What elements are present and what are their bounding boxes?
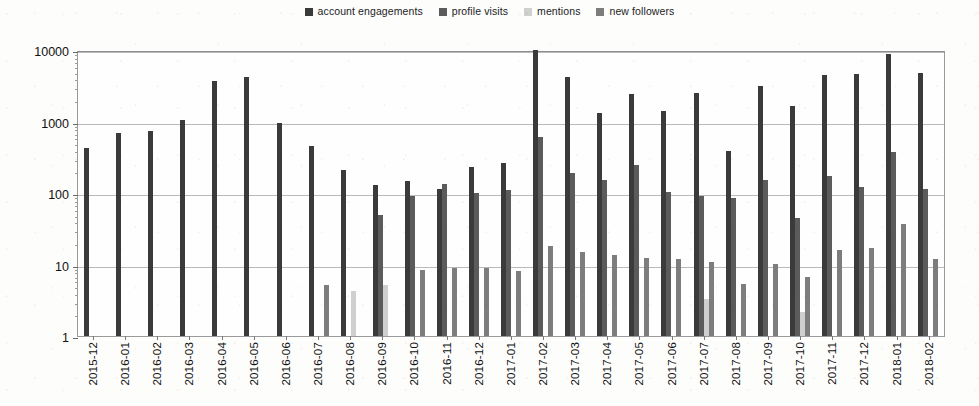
bar [869,248,874,336]
bar [116,133,121,336]
x-axis-tick-label: 2017-07 [698,342,710,386]
legend-item: account engagements [305,6,423,17]
bar [676,259,681,336]
bar [474,193,479,336]
legend-item: mentions [524,6,580,17]
x-axis-tick [382,336,383,340]
x-axis-tick-label: 2016-03 [183,342,195,386]
bar-group [463,52,495,336]
bar [309,146,314,336]
bar [891,152,896,336]
bar [484,268,489,336]
bar [538,137,543,336]
x-axis-label-cell: 2016-07 [302,340,334,404]
legend-swatch-icon [524,8,532,16]
bar [923,189,928,336]
bar-group [399,52,431,336]
legend-swatch-icon [596,8,604,16]
x-axis-tick-label: 2017-01 [505,342,517,386]
x-axis-tick [543,336,544,340]
bar [837,250,842,336]
x-axis-label-cell: 2017-04 [591,340,623,404]
x-axis-tick [318,336,319,340]
bar-group [912,52,944,336]
bar [602,180,607,336]
bar [383,285,388,336]
bar [516,271,521,336]
x-axis-label-cell: 2016-12 [463,340,495,404]
legend-swatch-icon [439,8,447,16]
x-axis-tick [189,336,190,340]
bar [644,258,649,336]
x-axis-label-cell: 2016-09 [366,340,398,404]
x-axis-tick-label: 2017-06 [666,342,678,386]
x-axis-tick-label: 2017-12 [858,342,870,386]
x-axis-tick [672,336,673,340]
x-axis-label-cell: 2016-08 [334,340,366,404]
bar-group [784,52,816,336]
x-axis-label-cell: 2017-06 [656,340,688,404]
bar [709,262,714,336]
x-axis-label-cell: 2016-06 [270,340,302,404]
x-axis-label-cell: 2016-02 [141,340,173,404]
bar [84,148,89,336]
x-axis-tick [768,336,769,340]
x-axis-label-cell: 2016-01 [109,340,141,404]
bar-group [335,52,367,336]
legend-label: new followers [609,6,674,17]
bar-group [495,52,527,336]
y-axis-tick [73,338,78,339]
bar [933,259,938,336]
x-axis-tick [929,336,930,340]
bar-group [367,52,399,336]
y-axis-tick-label: 100 [48,188,69,202]
x-axis-label-cell: 2016-05 [238,340,270,404]
bar-group [848,52,880,336]
bar [580,252,585,336]
x-axis-tick-label: 2016-01 [119,342,131,386]
x-axis-tick [511,336,512,340]
x-axis-tick-label: 2018-02 [923,342,935,386]
bar-group [720,52,752,336]
legend-label: account engagements [318,6,423,17]
bar-group [110,52,142,336]
bar-group [687,52,719,336]
bar [634,165,639,336]
x-axis-label-cell: 2016-10 [398,340,430,404]
x-axis-tick-label: 2016-06 [280,342,292,386]
x-axis-tick-label: 2016-08 [344,342,356,386]
bar-group [559,52,591,336]
x-axis-tick [832,336,833,340]
x-axis-label-cell: 2017-10 [784,340,816,404]
bar [731,198,736,336]
bar-group [270,52,302,336]
x-axis-tick [864,336,865,340]
x-axis-tick-label: 2016-11 [441,342,453,385]
x-axis-tick-label: 2017-08 [730,342,742,386]
legend-item: profile visits [439,6,508,17]
plot-area: 110100100010000 [77,51,945,337]
x-axis-label-cell: 2017-07 [688,340,720,404]
x-axis-label-cell: 2018-02 [913,340,945,404]
bar [180,120,185,336]
bar [148,131,153,336]
bar-group [142,52,174,336]
x-axis-label-cell: 2017-01 [495,340,527,404]
bar-group [238,52,270,336]
x-axis-label-cell: 2017-12 [848,340,880,404]
x-axis-tick-label: 2016-05 [248,342,260,386]
x-axis-tick-label: 2018-01 [891,342,903,386]
x-axis-label-cell: 2018-01 [881,340,913,404]
x-axis-tick [800,336,801,340]
bar-group [655,52,687,336]
x-axis-tick-label: 2016-07 [312,342,324,386]
bar-group [431,52,463,336]
x-axis-label-cell: 2015-12 [77,340,109,404]
x-axis-tick [254,336,255,340]
x-axis-tick [286,336,287,340]
x-axis-tick [157,336,158,340]
legend-item: new followers [596,6,674,17]
x-axis-tick [575,336,576,340]
x-axis-tick-label: 2016-09 [376,342,388,386]
bar [859,187,864,336]
